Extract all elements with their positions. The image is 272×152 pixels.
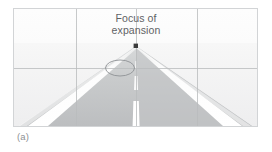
subfigure-label: (a) <box>17 131 29 143</box>
figure-panel: Focus of expansion <box>13 8 258 127</box>
annotation-line-1: Focus of <box>86 13 186 25</box>
black-square-marker <box>134 44 138 48</box>
focus-of-expansion-annotation: Focus of expansion <box>86 13 186 36</box>
annotation-line-2: expansion <box>86 25 186 37</box>
